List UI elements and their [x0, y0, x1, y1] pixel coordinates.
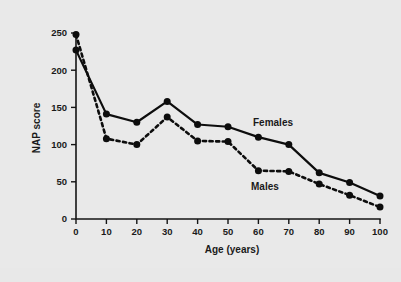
x-tick-label: 40 [192, 226, 203, 237]
x-tick-label: 100 [372, 226, 388, 237]
data-point-females [73, 47, 80, 54]
series-line-males [76, 34, 380, 207]
x-tick-label: 0 [73, 226, 78, 237]
data-point-males [346, 192, 353, 199]
data-point-males [255, 167, 262, 174]
data-point-females [225, 123, 232, 130]
series-label-females: Females [253, 117, 293, 128]
data-point-males [285, 168, 292, 175]
data-point-females [103, 111, 110, 118]
x-axis-tick-labels: 0102030405060708090100 [73, 226, 388, 237]
data-point-females [285, 141, 292, 148]
data-point-males [164, 114, 171, 121]
data-point-males [103, 135, 110, 142]
y-axis-title: NAP score [31, 102, 42, 153]
data-point-males [73, 31, 80, 38]
x-tick-label: 10 [101, 226, 112, 237]
data-point-females [133, 119, 140, 126]
axes: 050100150200250 0102030405060708090100 [51, 27, 388, 237]
x-tick-label: 90 [344, 226, 355, 237]
series-label-males: Males [251, 181, 279, 192]
data-point-females [346, 179, 353, 186]
y-tick-label: 200 [51, 65, 67, 76]
x-tick-label: 50 [223, 226, 234, 237]
x-tick-label: 20 [132, 226, 143, 237]
x-tick-label: 70 [284, 226, 295, 237]
data-point-females [255, 134, 262, 141]
data-point-males [133, 141, 140, 148]
data-series-group [73, 31, 384, 211]
data-point-males [316, 181, 323, 188]
data-point-males [194, 137, 201, 144]
x-tick-label: 30 [162, 226, 173, 237]
y-tick-label: 150 [51, 102, 67, 113]
data-point-females [316, 169, 323, 176]
data-point-males [377, 204, 384, 211]
chart-plot-svg: 050100150200250 0102030405060708090100 N… [0, 0, 401, 282]
y-tick-label: 50 [56, 176, 67, 187]
y-tick-label: 0 [62, 213, 67, 224]
x-tick-label: 80 [314, 226, 325, 237]
series-line-females [76, 50, 380, 196]
y-tick-label: 250 [51, 27, 67, 38]
data-point-females [164, 98, 171, 105]
y-axis-tick-labels: 050100150200250 [51, 27, 67, 224]
data-point-females [377, 192, 384, 199]
data-point-males [225, 138, 232, 145]
x-axis-title: Age (years) [205, 244, 259, 255]
data-point-females [194, 121, 201, 128]
x-tick-label: 60 [253, 226, 264, 237]
chart-figure: 050100150200250 0102030405060708090100 N… [0, 0, 401, 282]
y-tick-label: 100 [51, 139, 67, 150]
